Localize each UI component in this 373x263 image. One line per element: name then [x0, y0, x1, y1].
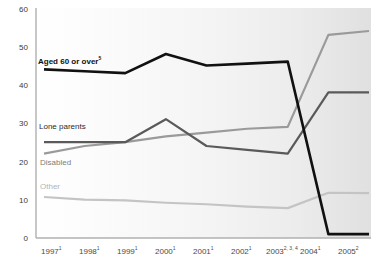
- x-tick-2004-sup: 1: [318, 245, 321, 251]
- x-tick-2001: 20011: [193, 245, 214, 256]
- x-tick-2003-sup: 2, 3, 4: [284, 245, 298, 251]
- x-tick-2001-year: 2001: [193, 247, 211, 256]
- series-label-lone-parents: Lone parents: [39, 122, 86, 131]
- x-tick-2002: 20021: [231, 245, 252, 256]
- y-tick-50: 50: [12, 43, 28, 52]
- x-tick-1999-year: 1999: [117, 247, 135, 256]
- x-tick-2000-sup: 1: [173, 245, 176, 251]
- x-tick-2002-year: 2002: [231, 247, 249, 256]
- x-tick-1997: 19971: [41, 245, 62, 256]
- x-tick-2000: 20001: [155, 245, 176, 256]
- x-tick-1997-sup: 1: [59, 245, 62, 251]
- series-label-disabled: Disabled: [40, 158, 71, 167]
- y-tick-10: 10: [12, 196, 28, 205]
- x-tick-2005: 20052: [338, 245, 359, 256]
- series-label-aged-sup: 5: [98, 55, 101, 61]
- x-tick-2004: 20041: [300, 245, 321, 256]
- chart-canvas: [0, 0, 373, 263]
- y-tick-40: 40: [12, 81, 28, 90]
- x-tick-2004-year: 2004: [300, 247, 318, 256]
- x-tick-2003: 20032, 3, 4: [266, 245, 298, 256]
- y-tick-30: 30: [12, 119, 28, 128]
- x-tick-1999: 19991: [117, 245, 138, 256]
- y-tick-0: 0: [12, 234, 28, 243]
- series-label-aged-text: Aged 60 or over: [38, 57, 98, 66]
- series-label-aged-60-or-over: Aged 60 or over5: [38, 55, 101, 66]
- x-tick-1997-year: 1997: [41, 247, 59, 256]
- x-tick-1998-sup: 1: [97, 245, 100, 251]
- x-tick-1998-year: 1998: [79, 247, 97, 256]
- x-tick-1999-sup: 1: [135, 245, 138, 251]
- x-tick-2000-year: 2000: [155, 247, 173, 256]
- x-tick-2001-sup: 1: [211, 245, 214, 251]
- y-tick-20: 20: [12, 158, 28, 167]
- x-tick-1998: 19981: [79, 245, 100, 256]
- x-tick-2002-sup: 1: [249, 245, 252, 251]
- x-tick-2003-year: 2003: [266, 247, 284, 256]
- line-chart: 60 50 40 30 20 10 0 19971 19981 19991 20…: [0, 0, 373, 263]
- series-label-other: Other: [40, 182, 60, 191]
- y-tick-60: 60: [12, 5, 28, 14]
- x-tick-2005-year: 2005: [338, 247, 356, 256]
- x-tick-2005-sup: 2: [356, 245, 359, 251]
